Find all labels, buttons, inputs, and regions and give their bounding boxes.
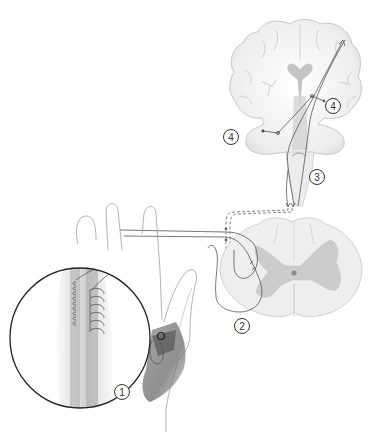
label-4-cerebellum-text: 4	[228, 132, 234, 143]
label-4-cortex: 4	[326, 99, 341, 114]
intrafusal-fiber-right	[86, 260, 98, 420]
thalamus-neuron-dot	[323, 100, 325, 102]
label-2: 2	[235, 319, 250, 334]
finger-little	[76, 216, 96, 244]
dorsal-root-dot-2	[225, 239, 227, 241]
label-1-text: 1	[119, 387, 125, 398]
central-canal	[292, 271, 297, 276]
dorsal-root-dot-1	[225, 228, 227, 230]
label-2-text: 2	[239, 321, 245, 332]
label-4-cortex-text: 4	[330, 101, 336, 112]
cerebellum-neuron-dot	[262, 130, 264, 132]
spinal-cord-cross-section	[220, 218, 362, 317]
proprioception-diagram: 1 2 3 4 4	[0, 0, 381, 446]
spindle-capsule	[57, 260, 113, 420]
finger-middle	[142, 207, 162, 321]
finger-ring	[106, 203, 122, 250]
brain-coronal-section	[230, 20, 362, 207]
label-3-text: 3	[314, 172, 320, 183]
label-4-cerebellum: 4	[224, 130, 239, 145]
descending-line-left	[287, 170, 289, 206]
label-1: 1	[115, 385, 130, 400]
label-3: 3	[310, 170, 325, 185]
intrafusal-fiber-left	[70, 260, 80, 420]
